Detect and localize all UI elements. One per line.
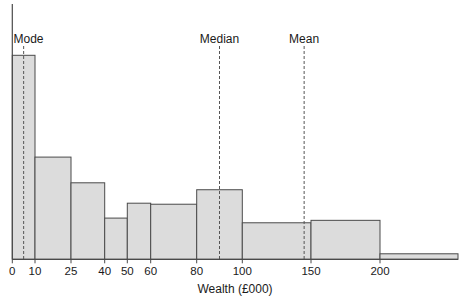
x-tick-label: 40 (98, 265, 111, 277)
x-axis-title: Wealth (£000) (197, 282, 272, 296)
histogram-chart: ModeMedianMean 0102540506080100150200 We… (0, 0, 462, 298)
x-tick-label: 100 (233, 265, 252, 277)
mode-label: Mode (14, 32, 44, 46)
x-tick-label: 10 (29, 265, 42, 277)
histogram-bar (127, 203, 150, 259)
histogram-bar (105, 218, 128, 259)
histogram-bar (380, 254, 458, 260)
x-tick-label: 200 (370, 265, 389, 277)
x-axis-ticks: 0102540506080100150200 (9, 259, 389, 277)
histogram-bar (151, 204, 197, 259)
x-tick-label: 80 (190, 265, 203, 277)
x-tick-label: 150 (301, 265, 320, 277)
histogram-bars (12, 55, 458, 259)
mean-label: Mean (289, 32, 319, 46)
histogram-bar (242, 223, 311, 260)
x-tick-label: 0 (9, 265, 15, 277)
median-label: Median (200, 32, 239, 46)
histogram-bar (35, 157, 71, 259)
x-tick-label: 60 (144, 265, 157, 277)
x-tick-label: 25 (65, 265, 78, 277)
histogram-bar (311, 220, 380, 259)
histogram-bar (71, 183, 105, 259)
x-tick-label: 50 (121, 265, 134, 277)
